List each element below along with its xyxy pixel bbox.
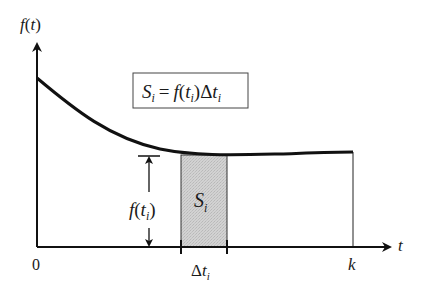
width-label: Δti — [191, 261, 210, 282]
end-label-k: k — [348, 255, 356, 274]
riemann-strip-diagram: f(t) Si=f(ti)Δti Si f(ti) Δti 0 k t — [0, 0, 425, 293]
origin-label: 0 — [32, 256, 40, 273]
y-axis-label: f(t) — [20, 15, 41, 34]
height-label: f(ti) — [129, 199, 156, 223]
x-axis-label: t — [398, 236, 404, 255]
